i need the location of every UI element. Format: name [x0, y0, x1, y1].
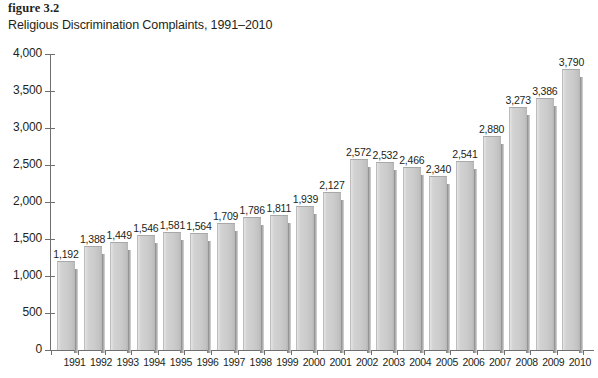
- x-tick-mark: [78, 350, 79, 355]
- bar: [509, 107, 527, 350]
- y-tick-mark: [45, 202, 55, 203]
- y-tick-label: 2,000: [13, 194, 42, 208]
- x-tick-mark: [504, 350, 505, 355]
- bar-value-label: 1,564: [179, 220, 219, 232]
- y-tick-mark: [45, 54, 55, 55]
- y-tick-label: 1,500: [13, 231, 42, 245]
- bar: [137, 235, 155, 350]
- bar: [562, 69, 580, 350]
- x-tick-mark: [477, 350, 478, 355]
- x-tick-mark: [158, 350, 159, 355]
- x-tick-mark: [530, 350, 531, 355]
- x-tick-mark: [131, 350, 132, 355]
- x-tick-mark: [424, 350, 425, 355]
- bar: [456, 161, 474, 350]
- x-tick-mark: [184, 350, 185, 355]
- bar: [376, 162, 394, 350]
- bar-value-label: 2,541: [445, 148, 485, 160]
- y-tick-mark: [45, 128, 55, 129]
- y-tick-label: 500: [23, 305, 42, 319]
- y-tick-label: 4,000: [13, 46, 42, 60]
- x-tick-mark: [105, 350, 106, 355]
- bar: [323, 192, 341, 350]
- bar: [110, 242, 128, 350]
- x-tick-label: 2010: [560, 356, 598, 368]
- bar: [350, 159, 368, 350]
- bar: [84, 246, 102, 350]
- y-tick-mark: [45, 313, 55, 314]
- bar: [190, 233, 208, 350]
- bar-value-label: 2,340: [418, 163, 458, 175]
- bar-value-label: 2,127: [312, 179, 352, 191]
- y-tick-label: 2,500: [13, 157, 42, 171]
- bar: [217, 223, 235, 350]
- x-tick-mark: [317, 350, 318, 355]
- bar-value-label: 1,939: [285, 193, 325, 205]
- x-tick-mark: [211, 350, 212, 355]
- bar: [296, 206, 314, 350]
- x-tick-mark: [557, 350, 558, 355]
- chart-plot-area: 05001,0001,5002,0002,5003,0003,5004,000 …: [0, 34, 598, 378]
- y-tick-label: 0: [36, 342, 42, 356]
- figure-container: figure 3.2 Religious Discrimination Comp…: [0, 0, 598, 378]
- bar: [403, 167, 421, 350]
- bar: [429, 176, 447, 350]
- y-tick-mark: [45, 276, 55, 277]
- x-tick-mark: [371, 350, 372, 355]
- bar: [536, 98, 554, 350]
- figure-number-label: figure 3.2: [8, 1, 59, 16]
- x-tick-mark: [583, 350, 584, 355]
- y-tick-mark: [45, 165, 55, 166]
- bar: [270, 215, 288, 350]
- y-tick-label: 1,000: [13, 268, 42, 282]
- bar-value-label: 3,386: [525, 85, 565, 97]
- bar: [483, 136, 501, 350]
- bar-value-label: 3,790: [551, 56, 591, 68]
- figure-title: Religious Discrimination Complaints, 199…: [8, 18, 272, 32]
- bar: [57, 261, 75, 350]
- y-tick-label: 3,000: [13, 120, 42, 134]
- x-tick-mark: [397, 350, 398, 355]
- x-tick-mark: [238, 350, 239, 355]
- x-tick-mark: [51, 350, 52, 355]
- y-tick-mark: [45, 91, 55, 92]
- x-tick-mark: [344, 350, 345, 355]
- y-tick-mark: [45, 350, 55, 351]
- y-tick-mark: [45, 239, 55, 240]
- bar-value-label: 1,192: [46, 248, 86, 260]
- bar: [163, 232, 181, 350]
- x-tick-mark: [291, 350, 292, 355]
- x-tick-mark: [450, 350, 451, 355]
- bar-value-label: 2,880: [472, 123, 512, 135]
- x-tick-mark: [264, 350, 265, 355]
- y-tick-label: 3,500: [13, 83, 42, 97]
- bar: [243, 217, 261, 350]
